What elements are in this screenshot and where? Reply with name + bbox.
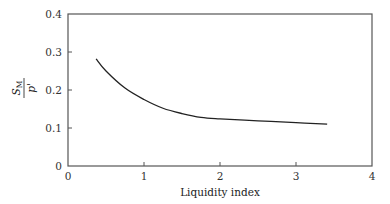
chart: 00.10.20.30.4 01234 Liquidity index SMp' xyxy=(0,0,390,204)
series-line xyxy=(96,59,327,124)
data-series xyxy=(96,59,327,124)
plot-frame xyxy=(68,14,372,166)
y-label-denominator: p' xyxy=(25,83,37,93)
x-tick-label: 1 xyxy=(141,170,148,182)
y-tick-label: 0.1 xyxy=(45,122,62,134)
x-axis-label: Liquidity index xyxy=(180,186,260,198)
y-label-numerator: SM xyxy=(10,80,24,95)
x-tick-label: 3 xyxy=(293,170,300,182)
x-tick-label: 2 xyxy=(217,170,224,182)
plot-border xyxy=(68,14,372,166)
y-tick-label: 0.4 xyxy=(45,8,62,20)
y-axis-label: SMp' xyxy=(10,78,37,98)
y-tick-label: 0.3 xyxy=(45,46,62,58)
y-tick-label: 0.2 xyxy=(45,84,62,96)
x-tick-label: 4 xyxy=(369,170,376,182)
x-tick-label: 0 xyxy=(65,170,72,182)
x-axis: 01234 xyxy=(65,162,376,182)
y-tick-label: 0 xyxy=(55,160,62,172)
